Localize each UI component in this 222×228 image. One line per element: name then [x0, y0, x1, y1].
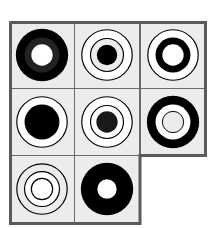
cell-r2-c1	[74, 155, 140, 225]
cell-r1-c2	[140, 88, 206, 156]
double-ring-black-dot-icon	[75, 22, 139, 88]
thick-ring-inner-ring-icon	[141, 89, 205, 155]
puzzle-grid	[9, 21, 207, 225]
thick-ring-white-center-icon	[10, 22, 74, 88]
cell-r2-c0	[9, 155, 75, 225]
cell-r1-c1	[74, 88, 140, 156]
cell-r0-c0	[9, 21, 75, 89]
cell-r1-c0	[9, 88, 75, 156]
cell-r0-c2	[140, 21, 206, 89]
ring-large-black-disc-icon	[10, 89, 74, 155]
triple-ring-icon	[10, 156, 74, 224]
cell-r0-c1	[74, 21, 140, 89]
black-disc-white-center-icon	[75, 156, 139, 224]
double-ring-dark-dot-icon	[75, 89, 139, 155]
outer-ring-thick-ring-icon	[141, 22, 205, 88]
